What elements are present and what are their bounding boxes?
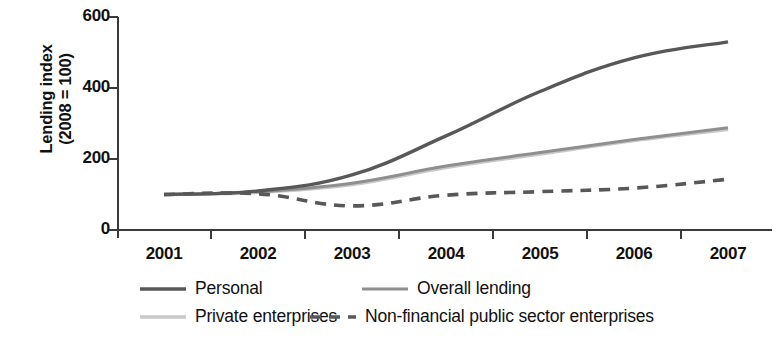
legend-item-private-enterprises: Private enterprises xyxy=(140,308,337,326)
legend-label: Non-financial public sector enterprises xyxy=(365,308,654,326)
legend-label: Overall lending xyxy=(417,280,531,298)
data-series-group xyxy=(164,42,728,206)
legend-item-overall-lending: Overall lending xyxy=(362,280,531,298)
legend-line-swatch-icon xyxy=(140,283,186,295)
legend-item-non-financial-public-sector: Non-financial public sector enterprises xyxy=(310,308,654,326)
legend-line-swatch-icon xyxy=(362,283,408,295)
plot-area xyxy=(0,0,776,276)
legend-line-swatch-icon xyxy=(310,311,356,323)
legend-item-personal: Personal xyxy=(140,280,262,298)
legend-line-swatch-icon xyxy=(140,311,186,323)
legend-label: Personal xyxy=(195,280,262,298)
lending-index-line-chart: Lending index (2008 = 100) 600 400 200 0… xyxy=(0,0,776,340)
series-line xyxy=(164,42,728,195)
chart-legend: Personal Overall lending Private enterpr… xyxy=(0,278,776,340)
